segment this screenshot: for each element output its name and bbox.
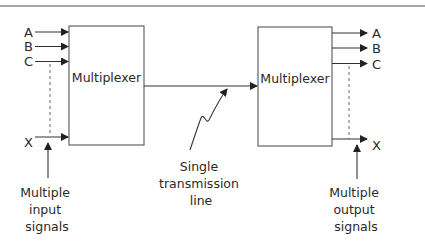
output-label-c: C — [372, 57, 381, 72]
transmission-line-caption: Single transmission line — [159, 159, 243, 208]
input-caption: Multiple input signals — [20, 185, 74, 234]
transmission-line-pointer — [190, 89, 227, 150]
output-label-x: X — [372, 138, 381, 153]
output-caption: Multiple output signals — [329, 185, 383, 234]
input-label-x: X — [24, 135, 33, 150]
output-signals: A B C X — [332, 26, 381, 179]
right-multiplexer-label: Multiplexer — [260, 71, 330, 86]
left-multiplexer-label: Multiplexer — [72, 70, 142, 85]
input-signals: A B C X — [24, 25, 68, 179]
output-label-b: B — [372, 41, 381, 56]
left-multiplexer: Multiplexer — [69, 26, 144, 145]
input-label-a: A — [24, 25, 33, 40]
input-label-b: B — [24, 39, 33, 54]
output-label-a: A — [372, 26, 381, 41]
right-multiplexer-box — [258, 27, 332, 146]
left-multiplexer-box — [69, 26, 144, 145]
input-label-c: C — [24, 54, 33, 69]
multiplexer-diagram: Multiplexer A B C X Multiple input signa… — [0, 0, 425, 251]
right-multiplexer: Multiplexer — [258, 27, 332, 146]
